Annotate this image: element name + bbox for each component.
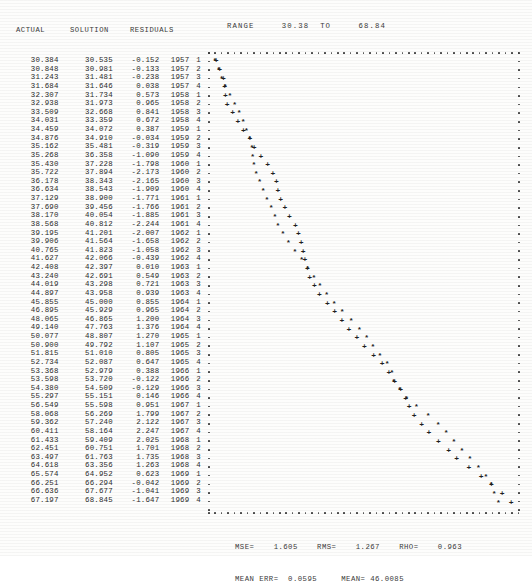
plot-point-actual: *: [475, 464, 483, 472]
table-row: 43.24042.6910.54919632: [16, 272, 201, 281]
stats-line-1: MSE= 1.605 RMS= 1.267 RHO= 0.963: [235, 542, 462, 553]
plot-border-dot: [260, 512, 262, 514]
cell-quarter: 2: [189, 341, 201, 350]
plot-border-dot: [227, 52, 229, 54]
plot-border-dot: [518, 475, 520, 477]
cell-quarter: 3: [189, 177, 201, 186]
cell-year: 1959: [159, 134, 189, 143]
cell-year: 1964: [159, 298, 189, 307]
plot-border-dot: [518, 432, 520, 434]
table-row: 61.43359.4092.02519681: [16, 436, 201, 445]
cell-solution: 66.294: [59, 479, 113, 488]
table-row: 67.19768.845-1.64719694: [16, 496, 201, 505]
cell-solution: 59.409: [59, 436, 113, 445]
plot-border-dot: [460, 512, 462, 514]
cell-solution: 38.343: [59, 177, 113, 186]
plot-border-dot: [518, 484, 520, 486]
plot-point-solution: +: [498, 490, 506, 498]
plot-border-dot: [221, 52, 223, 54]
plot-border-dot: [518, 276, 520, 278]
cell-residual: 2.247: [113, 427, 159, 436]
plot-border-dot: [518, 121, 520, 123]
table-row: 36.63438.543-1.90919604: [16, 185, 201, 194]
plot-border-dot: [208, 311, 210, 313]
cell-actual: 31.243: [16, 73, 59, 82]
cell-actual: 63.497: [16, 453, 59, 462]
cell-quarter: 4: [189, 254, 201, 263]
table-row: 38.17040.054-1.88519613: [16, 211, 201, 220]
table-row: 31.68431.6460.03819574: [16, 82, 201, 91]
plot-border-dot: [208, 320, 210, 322]
plot-border-dot: [285, 512, 287, 514]
plot-border-dot: [305, 52, 307, 54]
table-row: 59.36257.2402.12219673: [16, 418, 201, 427]
cell-solution: 68.845: [59, 496, 113, 505]
cell-residual: 1.376: [113, 323, 159, 332]
cell-quarter: 4: [189, 185, 201, 194]
plot-border-dot: [518, 104, 520, 106]
cell-year: 1963: [159, 289, 189, 298]
table-row: 34.03133.3590.67219584: [16, 116, 201, 125]
plot-point-solution: +: [425, 429, 433, 437]
plot-border-dot: [518, 216, 520, 218]
plot-border-dot: [208, 432, 210, 434]
plot-border-dot: [421, 512, 423, 514]
plot-border-dot: [279, 52, 281, 54]
cell-solution: 48.807: [59, 332, 113, 341]
cell-year: 1969: [159, 479, 189, 488]
table-row: 35.43037.228-1.79819601: [16, 160, 201, 169]
cell-solution: 52.979: [59, 367, 113, 376]
plot-border-dot: [208, 380, 210, 382]
cell-actual: 39.906: [16, 237, 59, 246]
cell-actual: 34.876: [16, 134, 59, 143]
table-row: 42.40842.3970.01019631: [16, 263, 201, 272]
plot-point-solution: +: [507, 499, 515, 507]
cell-quarter: 2: [189, 306, 201, 315]
plot-border-dot: [518, 250, 520, 252]
cell-year: 1964: [159, 323, 189, 332]
cell-quarter: 3: [189, 315, 201, 324]
cell-actual: 58.068: [16, 410, 59, 419]
table-row: 49.14047.7631.37619644: [16, 323, 201, 332]
plot-point-solution: +: [453, 455, 461, 463]
table-row: 35.16235.481-0.31919593: [16, 142, 201, 151]
plot-border-dot: [402, 512, 404, 514]
plot-point-actual: *: [347, 317, 355, 325]
cell-residual: 0.647: [113, 358, 159, 367]
cell-year: 1958: [159, 108, 189, 117]
table-row: 66.63667.677-1.04119693: [16, 487, 201, 496]
plot-border-dot: [518, 242, 520, 244]
plot-border-dot: [208, 501, 210, 503]
cell-year: 1965: [159, 358, 189, 367]
plot-border-dot: [208, 199, 210, 201]
plot-border-dot: [208, 328, 210, 330]
plot-point-solution: +: [338, 317, 346, 325]
plot-border-dot: [208, 475, 210, 477]
plot-border-dot: [208, 268, 210, 270]
plot-border-dot: [305, 512, 307, 514]
cell-residual: -1.885: [113, 211, 159, 220]
cell-year: 1962: [159, 237, 189, 246]
cell-quarter: 4: [189, 116, 201, 125]
cell-quarter: 1: [189, 125, 201, 134]
cell-actual: 35.430: [16, 160, 59, 169]
cell-solution: 41.201: [59, 229, 113, 238]
table-row: 30.38430.535-0.15219571: [16, 56, 201, 65]
cell-residual: -2.165: [113, 177, 159, 186]
cell-actual: 30.848: [16, 65, 59, 74]
cell-quarter: 4: [189, 82, 201, 91]
plot-border-dot: [518, 164, 520, 166]
plot-point-actual: *: [388, 369, 396, 377]
cell-residual: 1.200: [113, 315, 159, 324]
cell-quarter: 4: [189, 358, 201, 367]
plot-border-dot: [518, 363, 520, 365]
cell-solution: 31.646: [59, 82, 113, 91]
cell-solution: 56.269: [59, 410, 113, 419]
plot-border-dot: [356, 512, 358, 514]
cell-actual: 44.019: [16, 280, 59, 289]
cell-actual: 53.598: [16, 375, 59, 384]
plot-border-dot: [208, 337, 210, 339]
cell-residual: 1.270: [113, 332, 159, 341]
cell-solution: 57.240: [59, 418, 113, 427]
cell-solution: 46.865: [59, 315, 113, 324]
